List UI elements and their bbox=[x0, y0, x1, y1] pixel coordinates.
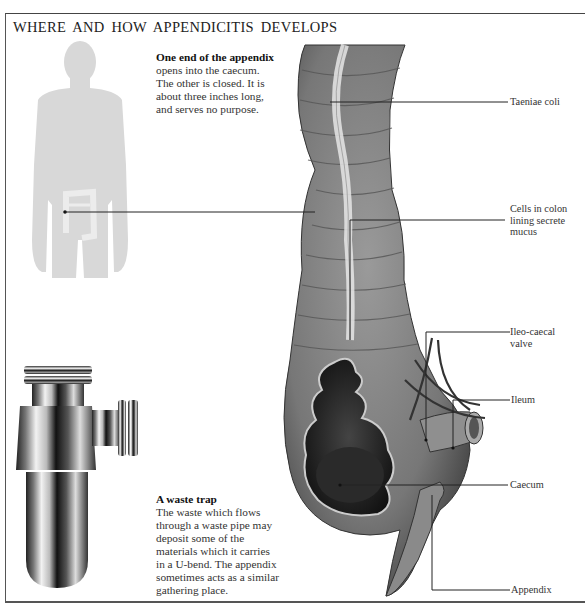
trap-line: gathering place. bbox=[156, 584, 279, 597]
intro-line: opens into the caecum. bbox=[156, 64, 274, 77]
label-caecum: Caecum bbox=[510, 479, 544, 491]
label-line: mucus bbox=[510, 226, 567, 238]
trap-line: deposit some of the bbox=[156, 532, 279, 545]
label-cells-in-colon: Cells in colon lining secrete mucus bbox=[510, 203, 567, 238]
trap-line: in a U-bend. The appendix bbox=[156, 558, 279, 571]
human-silhouette-icon bbox=[32, 41, 128, 278]
intro-heading: One end of the appendix bbox=[156, 51, 274, 64]
intro-text: One end of the appendix opens into the c… bbox=[156, 51, 274, 116]
trap-heading: A waste trap bbox=[156, 493, 279, 506]
colon-illustration-icon bbox=[284, 45, 485, 596]
label-ileum: Ileum bbox=[511, 394, 535, 406]
leader-lines bbox=[65, 102, 510, 590]
waste-trap-icon bbox=[16, 366, 138, 588]
label-line: Ileo-caecal bbox=[510, 326, 555, 338]
trap-line: sometimes acts as a similar bbox=[156, 571, 279, 584]
intro-line: The other is closed. It is bbox=[156, 77, 274, 90]
label-line: valve bbox=[510, 338, 555, 350]
trap-text: A waste trap The waste which flows throu… bbox=[156, 493, 279, 597]
trap-line: The waste which flows bbox=[156, 506, 279, 519]
label-line: Cells in colon bbox=[510, 203, 567, 215]
trap-line: materials which it carries bbox=[156, 545, 279, 558]
label-taeniae-coli: Taeniae coli bbox=[510, 96, 560, 108]
label-line: lining secrete bbox=[510, 215, 567, 227]
trap-line: through a waste pipe may bbox=[156, 519, 279, 532]
intro-line: and serves no purpose. bbox=[156, 103, 274, 116]
label-appendix: Appendix bbox=[511, 584, 552, 596]
label-ileo-caecal-valve: Ileo-caecal valve bbox=[510, 326, 555, 349]
intro-line: about three inches long, bbox=[156, 90, 274, 103]
